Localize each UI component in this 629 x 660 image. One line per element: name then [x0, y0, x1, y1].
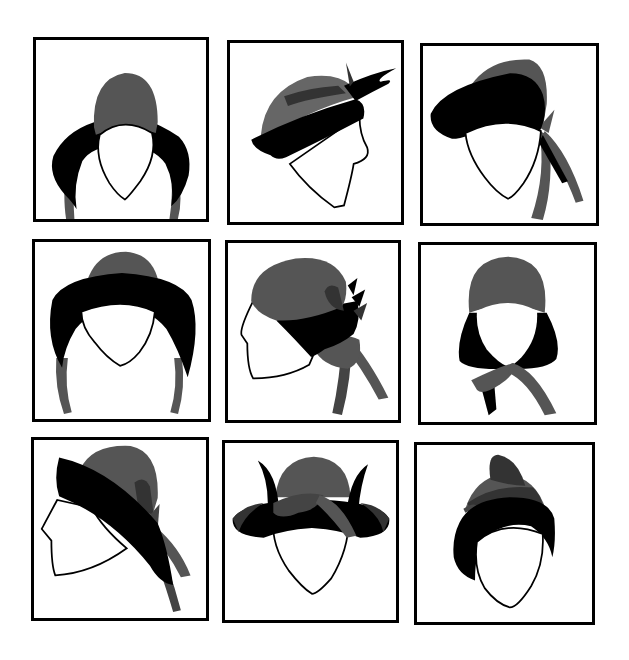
panel-turban-top-bow — [414, 442, 595, 625]
face — [81, 304, 154, 366]
hat-illustration-7 — [34, 440, 206, 618]
face — [98, 125, 153, 200]
panel-cloche-feather — [227, 40, 404, 225]
panel-hood-neck-bow — [418, 242, 597, 425]
hat-illustration-8 — [225, 443, 396, 620]
hat-illustration-4 — [35, 242, 208, 419]
face — [466, 123, 541, 199]
hat-illustration-9 — [417, 445, 592, 622]
tie-right — [170, 358, 183, 414]
bow-tail-gray — [508, 363, 556, 415]
tie-left — [56, 358, 72, 414]
hat-illustration-3 — [423, 46, 596, 223]
panel-wide-brim-bow — [420, 43, 599, 226]
hat-illustration-5 — [228, 243, 398, 420]
top-bow — [490, 455, 526, 486]
panel-upturned-brim-horns — [222, 440, 399, 623]
bow-loop-1 — [348, 278, 358, 295]
crown-gray — [275, 457, 350, 498]
panel-poke-bonnet — [32, 239, 211, 422]
panel-slanted-brim — [31, 437, 209, 621]
panel-cloche-back-bow — [225, 240, 401, 423]
hat-illustration-6 — [421, 245, 594, 422]
panel-bonnet-front — [33, 37, 209, 222]
face — [476, 528, 543, 608]
hat-illustration-2 — [230, 43, 401, 222]
hat-illustration-1 — [36, 40, 206, 219]
